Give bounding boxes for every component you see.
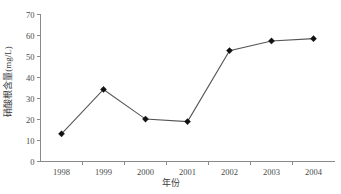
- x-tick-label: 1998: [53, 167, 70, 177]
- chart-container: 硝酸根含量(mg/L) 010203040506070 199819992000…: [0, 0, 341, 194]
- x-tick-label: 2003: [263, 167, 280, 177]
- y-tick-label: 40: [26, 73, 35, 83]
- y-tick-label: 50: [26, 52, 35, 62]
- y-tick-label: 0: [30, 157, 34, 167]
- y-tick-label: 60: [26, 31, 35, 41]
- y-tick-label: 10: [26, 136, 35, 146]
- data-point-marker: [268, 38, 274, 44]
- y-axis-ticks: 010203040506070: [26, 10, 41, 167]
- data-point-marker: [310, 36, 316, 42]
- x-tick-label: 2000: [137, 167, 154, 177]
- x-tick-label: 2001: [179, 167, 196, 177]
- data-point-marker: [226, 48, 232, 54]
- x-tick-label: 1999: [95, 167, 112, 177]
- data-point-marker: [184, 119, 190, 125]
- x-axis-title: 年份: [0, 176, 341, 189]
- x-tick-label: 2004: [305, 167, 323, 177]
- y-tick-label: 70: [26, 10, 35, 20]
- x-axis-ticks: 1998199920002001200220032004: [53, 162, 323, 177]
- data-point-markers: [58, 36, 316, 137]
- x-tick-label: 2002: [221, 167, 238, 177]
- y-tick-label: 30: [26, 94, 35, 104]
- chart-plot-area: 010203040506070 199819992000200120022003…: [0, 0, 341, 194]
- y-tick-label: 20: [26, 115, 35, 125]
